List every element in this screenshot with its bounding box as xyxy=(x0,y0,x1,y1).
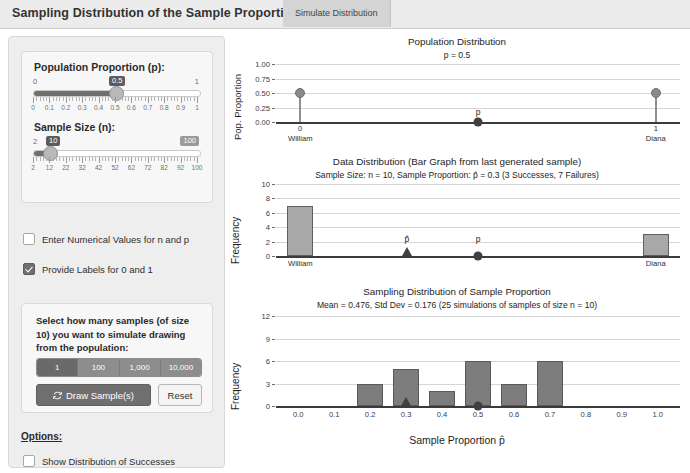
p-marker-circle xyxy=(474,252,483,261)
slider-tick-minor xyxy=(53,97,54,101)
y-axis-label: Pop. Proportion xyxy=(232,74,243,140)
slider-tick-minor xyxy=(46,157,47,161)
app-header: Sampling Distribution of the Sample Prop… xyxy=(0,0,690,29)
n-slider-track[interactable] xyxy=(33,150,201,157)
bar xyxy=(465,361,491,406)
y-tick-label: 8 xyxy=(244,194,270,203)
y-tick-mark xyxy=(272,108,275,109)
p-marker-circle xyxy=(474,118,483,127)
slider-tick xyxy=(115,97,116,103)
grid-line xyxy=(276,93,680,94)
slider-tick-minor xyxy=(46,97,47,101)
slider-tick-minor xyxy=(85,97,86,101)
slider-tick xyxy=(49,97,50,103)
category-label: Diana xyxy=(646,259,666,268)
y-tick-label: 0.25 xyxy=(244,103,270,112)
x-tick-label: 0.9 xyxy=(617,410,628,419)
bar xyxy=(537,361,563,406)
slider-tick-label: 0.1 xyxy=(45,104,54,111)
slider-tick-label: 42 xyxy=(95,164,102,171)
page-title: Sampling Distribution of the Sample Prop… xyxy=(12,6,299,20)
slider-tick xyxy=(148,157,149,163)
grid-line xyxy=(276,227,680,228)
p-marker-label: p xyxy=(476,234,481,244)
slider-tick-minor xyxy=(141,157,142,161)
slider-tick-minor xyxy=(59,157,60,161)
checkbox-show-distribution-of-successes[interactable]: Show Distribution of Successes xyxy=(23,455,175,467)
slider-tick-minor xyxy=(43,97,44,101)
y-tick-mark xyxy=(272,361,275,362)
slider-tick xyxy=(49,157,50,163)
sample-count-segmented-control[interactable]: 11001,00010,000 xyxy=(36,358,202,377)
slider-tick-minor xyxy=(177,97,178,101)
simulate-instruction: Select how many samples (of size 10) you… xyxy=(36,314,200,355)
x-tick-label: 0.0 xyxy=(293,410,304,419)
slider-tick-minor xyxy=(161,157,162,161)
n-slider-min-label: 2 xyxy=(33,137,37,146)
slider-tick-label: 0.7 xyxy=(143,104,152,111)
slider-tick-minor xyxy=(190,97,191,101)
checkbox-provide-labels[interactable]: Provide Labels for 0 and 1 xyxy=(23,263,153,275)
y-tick-mark xyxy=(272,93,275,94)
reset-button[interactable]: Reset xyxy=(158,384,202,406)
slider-tick xyxy=(181,97,182,103)
phat-marker-label: p̂ xyxy=(405,234,410,244)
slider-tick-label: 62 xyxy=(128,164,135,171)
checkbox-box[interactable] xyxy=(23,233,35,245)
checkbox-box[interactable] xyxy=(23,455,35,467)
sample-count-option[interactable]: 100 xyxy=(78,359,119,376)
grid-line xyxy=(276,316,680,317)
slider-tick-label: 0.4 xyxy=(94,104,103,111)
slider-tick-minor xyxy=(112,97,113,101)
p-slider-min-label: 0 xyxy=(33,77,37,86)
slider-tick-minor xyxy=(105,157,106,161)
sampling-distribution-chart: Sampling Distribution of Sample Proporti… xyxy=(228,284,686,472)
tab-simulate-distribution[interactable]: Simulate Distribution xyxy=(283,0,391,27)
n-slider-max-badge: 100 xyxy=(180,136,199,146)
slider-tick-label: 82 xyxy=(161,164,168,171)
y-tick-mark xyxy=(272,227,275,228)
checkbox-label: Show Distribution of Successes xyxy=(42,456,175,467)
slider-tick-minor xyxy=(122,157,123,161)
y-tick-label: 2 xyxy=(244,237,270,246)
category-label: William xyxy=(288,259,312,268)
slider-tick-minor xyxy=(151,97,152,101)
reset-label: Reset xyxy=(168,390,193,401)
slider-tick-minor xyxy=(79,157,80,161)
chart-subtitle: Mean = 0.476, Std Dev = 0.176 (25 simula… xyxy=(228,300,686,310)
draw-samples-button[interactable]: Draw Sample(s) xyxy=(36,384,151,406)
slider-tick xyxy=(197,97,198,103)
phat-marker-triangle xyxy=(401,397,411,406)
x-tick-label: 0.3 xyxy=(401,410,412,419)
y-tick-label: 12 xyxy=(244,312,270,321)
slider-tick-minor xyxy=(95,97,96,101)
y-tick-mark xyxy=(272,384,275,385)
x-axis-label: Sample Proportion p̂ xyxy=(228,434,686,446)
sample-count-option[interactable]: 1,000 xyxy=(120,359,161,376)
slider-tick-label: 0.6 xyxy=(127,104,136,111)
slider-tick-minor xyxy=(89,97,90,101)
slider-tick-label: 52 xyxy=(111,164,118,171)
y-tick-mark xyxy=(272,242,275,243)
sample-count-option[interactable]: 10,000 xyxy=(161,359,201,376)
control-sidebar: Population Proportion (p): 0 1 0.5 00.10… xyxy=(8,36,225,468)
slider-tick xyxy=(197,157,198,163)
y-tick-label: 0.00 xyxy=(244,118,270,127)
slider-tick-minor xyxy=(145,97,146,101)
bar xyxy=(643,234,669,256)
slider-tick-label: 1 xyxy=(195,104,199,111)
chart-title: Data Distribution (Bar Graph from last g… xyxy=(228,156,686,167)
slider-tick-minor xyxy=(122,97,123,101)
sample-count-option[interactable]: 1 xyxy=(37,359,78,376)
slider-tick-minor xyxy=(95,157,96,161)
slider-tick-minor xyxy=(167,157,168,161)
slider-tick-label: 92 xyxy=(177,164,184,171)
slider-tick-label: 0.3 xyxy=(78,104,87,111)
slider-tick-minor xyxy=(108,157,109,161)
slider-tick-minor xyxy=(56,157,57,161)
checkbox-enter-numerical-values[interactable]: Enter Numerical Values for n and p xyxy=(23,233,189,245)
y-tick-mark xyxy=(272,213,275,214)
slider-tick-minor xyxy=(184,97,185,101)
checkbox-box[interactable] xyxy=(23,263,35,275)
slider-tick-minor xyxy=(125,157,126,161)
